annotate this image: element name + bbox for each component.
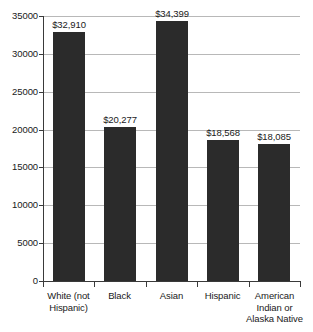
- x-axis-tick-mark: [300, 282, 301, 287]
- bar: [53, 32, 85, 281]
- x-axis-tick-mark: [249, 282, 250, 287]
- bar: [104, 127, 136, 281]
- x-axis-category-label: Hispanic: [194, 290, 251, 302]
- bar: [207, 140, 239, 281]
- y-axis-tick-label: 30000: [4, 49, 38, 59]
- bar-value-label: $32,910: [29, 19, 109, 30]
- x-axis-category-label-line: White (not: [40, 290, 97, 302]
- x-axis-category-label: Asian: [143, 290, 200, 302]
- bar: [258, 144, 290, 281]
- x-axis-category-label-line: American: [246, 290, 303, 302]
- y-axis-tick-label: 5000: [4, 238, 38, 248]
- y-axis-tick-label: 25000: [4, 87, 38, 97]
- x-axis-category-label-line: Hispanic: [194, 290, 251, 302]
- y-axis-tick-label: 0: [4, 276, 38, 286]
- x-axis-tick-mark: [94, 282, 95, 287]
- bar-value-label: $34,399: [132, 8, 212, 19]
- bar-value-label: $18,085: [234, 131, 313, 142]
- x-axis-category-label-line: Asian: [143, 290, 200, 302]
- x-axis-line: [43, 281, 301, 282]
- x-axis-tick-mark: [197, 282, 198, 287]
- bar: [156, 21, 188, 281]
- bar-value-label: $20,277: [80, 114, 160, 125]
- x-axis-category-label: Black: [91, 290, 148, 302]
- x-axis-category-label-line: Hispanic): [40, 302, 97, 314]
- x-axis-tick-mark: [146, 282, 147, 287]
- y-axis-line: [43, 16, 44, 282]
- y-axis-tick-label: 15000: [4, 162, 38, 172]
- y-axis-tick-label: 10000: [4, 200, 38, 210]
- x-axis-category-label-line: Alaska Native: [246, 313, 303, 325]
- x-axis-category-label-line: Black: [91, 290, 148, 302]
- x-axis-tick-mark: [43, 282, 44, 287]
- x-axis-category-label: White (notHispanic): [40, 290, 97, 313]
- bar-chart: 05000100001500020000250003000035000 $32,…: [0, 0, 313, 332]
- x-axis-category-label-line: Indian or: [246, 302, 303, 314]
- x-axis-category-label: AmericanIndian orAlaska Native: [246, 290, 303, 325]
- y-axis-tick-label: 20000: [4, 125, 38, 135]
